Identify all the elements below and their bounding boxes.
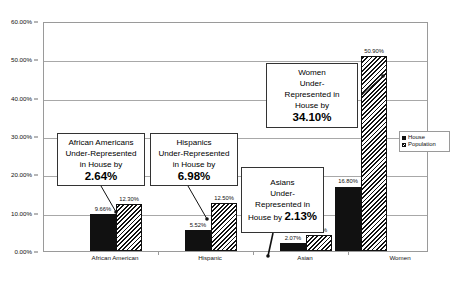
callout-line: Under-Represented — [158, 148, 229, 159]
y-tick-mark — [34, 213, 38, 214]
y-tick-mark — [34, 175, 38, 176]
y-tick-mark — [34, 60, 38, 61]
bar-population-asian — [306, 235, 332, 251]
bar-value-label: 5.52% — [190, 223, 206, 229]
bar-value-label: 9.66% — [95, 207, 111, 213]
y-axis: 0.00% 10.00% 20.00% 30.00% 40.00% 50.00%… — [0, 22, 38, 252]
legend-swatch-icon — [402, 136, 406, 140]
callout-value: 2.64% — [85, 170, 118, 183]
callout-hispanic: Hispanics Under-Represented in House by … — [150, 133, 238, 186]
callout-line: Under- — [300, 78, 325, 89]
legend: House Population — [399, 131, 450, 152]
bar-population-african-american — [116, 204, 142, 251]
y-tick-label: 0.00% — [14, 249, 32, 255]
bar-chart: 0.00% 10.00% 20.00% 30.00% 40.00% 50.00%… — [0, 0, 456, 286]
legend-swatch-icon — [402, 143, 406, 147]
x-tick-label-african-american: African American — [92, 255, 139, 261]
callout-inline-prefix: House by — [248, 213, 284, 222]
callout-value: 34.10% — [292, 111, 331, 124]
callout-line: Represented in — [255, 199, 310, 210]
y-tick-label: 30.00% — [11, 134, 32, 140]
y-tick-label: 20.00% — [11, 172, 32, 178]
y-tick-label: 10.00% — [11, 211, 32, 217]
legend-item-population: Population — [402, 142, 447, 148]
y-tick-label: 40.00% — [11, 96, 32, 102]
callout-line: Represented in — [285, 89, 340, 100]
bar-house-women — [335, 187, 361, 251]
callout-line: Women — [298, 67, 326, 78]
callout-line: African Americans — [68, 137, 133, 148]
bar-population-hispanic — [211, 203, 237, 251]
y-tick-label: 60.00% — [11, 19, 32, 25]
callout-line: in House by — [173, 159, 216, 170]
y-tick-mark — [34, 137, 38, 138]
bar-value-label: 16.80% — [338, 179, 358, 185]
callout-asian: Asians Under- Represented in House by 2.… — [241, 167, 324, 233]
legend-label: Population — [408, 142, 436, 148]
callout-line: Under- — [270, 188, 295, 199]
bar-value-label: 2.07% — [285, 236, 301, 242]
x-tick-label-asian: Asian — [297, 255, 312, 261]
callout-women: Women Under- Represented in House by 34.… — [266, 63, 358, 128]
y-tick-label: 50.00% — [11, 57, 32, 63]
bar-house-asian — [280, 243, 306, 251]
x-tick-label-women: Women — [389, 255, 410, 261]
callout-line: Under-Represented — [65, 148, 136, 159]
callout-value-row: House by 2.13% — [248, 210, 317, 223]
bar-value-label: 12.30% — [119, 197, 139, 203]
callout-line: Asians — [270, 177, 294, 188]
callout-line: in House by — [80, 159, 123, 170]
bar-house-african-american — [90, 214, 116, 251]
x-axis-separator — [253, 251, 254, 255]
x-axis: African American Hispanic Asian Women — [43, 255, 428, 275]
callout-line: House by — [295, 100, 329, 111]
bar-house-hispanic — [185, 230, 211, 251]
x-axis-separator — [158, 251, 159, 255]
x-tick-label-hispanic: Hispanic — [198, 255, 222, 261]
callout-value: 6.98% — [178, 170, 211, 183]
callout-african-american: African Americans Under-Represented in H… — [57, 133, 145, 186]
y-tick-mark — [34, 22, 38, 23]
bar-population-women — [361, 56, 387, 251]
y-tick-mark — [34, 98, 38, 99]
x-axis-separator — [348, 251, 349, 255]
bar-value-label: 12.50% — [214, 196, 234, 202]
callout-value: 2.13% — [284, 210, 317, 222]
bar-value-label: 50.90% — [364, 49, 384, 55]
y-tick-mark — [34, 252, 38, 253]
callout-line: Hispanics — [176, 137, 211, 148]
